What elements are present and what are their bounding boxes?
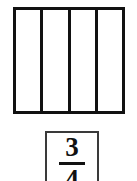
fraction-numerator: 3 xyxy=(65,134,79,160)
fraction-denominator: 4 xyxy=(65,166,79,181)
fraction-model-rectangle xyxy=(13,7,125,114)
model-part-4 xyxy=(98,10,122,111)
model-part-2 xyxy=(43,10,70,111)
fraction-label-box: 3 4 xyxy=(45,131,99,181)
model-part-1 xyxy=(16,10,43,111)
model-part-3 xyxy=(71,10,98,111)
fraction-stack: 3 4 xyxy=(47,134,97,181)
